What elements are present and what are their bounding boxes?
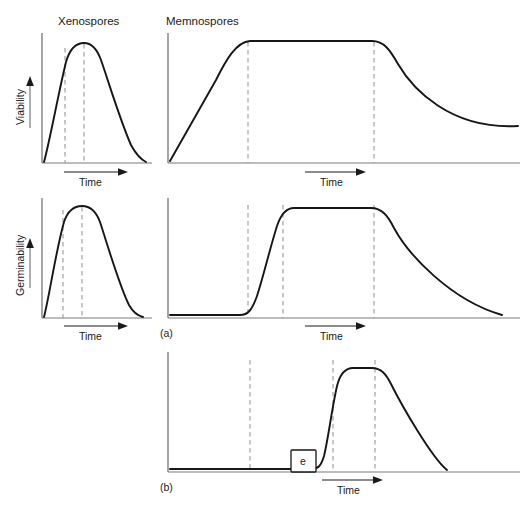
- panel-memnospores-viability: Time: [168, 33, 520, 188]
- annotation-e-box: e: [291, 450, 316, 472]
- x-axis-time-arrow: [305, 168, 366, 175]
- germinability-curve-memnospores-a: [170, 208, 502, 315]
- x-axis-time-arrow: [322, 476, 383, 483]
- x-axis-label-time: Time: [79, 176, 102, 188]
- y-axis-arrow: [26, 238, 34, 288]
- spore-viability-figure: Xenospores Memnospores Viability Time: [0, 0, 527, 510]
- germinability-curve-xenospores: [44, 206, 143, 317]
- x-axis-label-time: Time: [337, 484, 360, 496]
- panel-xenospores-viability: Viability Time: [14, 33, 152, 188]
- panel-tag-b: (b): [160, 481, 173, 493]
- y-axis-label-viability: Viability: [14, 88, 26, 125]
- e-box-label: e: [300, 455, 306, 467]
- x-axis-time-arrow: [305, 322, 366, 329]
- x-axis-label-time: Time: [79, 330, 102, 342]
- panel-memnospores-germinability-a: Time (a): [160, 198, 520, 342]
- panel-xenospores-germinability: Germinability Time: [14, 198, 152, 342]
- x-axis-label-time: Time: [320, 176, 343, 188]
- column-title-memnospores: Memnospores: [166, 15, 239, 27]
- y-axis-arrow: [26, 76, 34, 128]
- viability-curve-xenospores: [44, 43, 146, 162]
- y-axis-label-germinability: Germinability: [14, 234, 26, 296]
- figure-canvas: Xenospores Memnospores Viability Time: [0, 0, 527, 510]
- panel-memnospores-germinability-b: e Time (b): [160, 352, 520, 496]
- x-axis-time-arrow: [64, 322, 128, 329]
- x-axis-label-time: Time: [320, 330, 343, 342]
- x-axis-time-arrow: [64, 168, 128, 175]
- panel-tag-a: (a): [160, 327, 173, 339]
- column-title-xenospores: Xenospores: [58, 15, 120, 27]
- viability-curve-memnospores: [170, 41, 518, 161]
